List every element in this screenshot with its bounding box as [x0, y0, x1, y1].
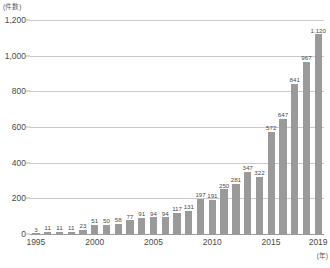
- bar-value-label: 117: [172, 206, 182, 212]
- x-axis-tick-label: 2000: [85, 238, 104, 247]
- x-axis-tick-label: 2019: [309, 238, 328, 247]
- bar: 77: [126, 220, 133, 234]
- x-axis-tick-label: 1995: [26, 238, 45, 247]
- bar-slot: 322: [254, 20, 266, 234]
- bar-value-label: 51: [91, 218, 98, 224]
- plot-area: 3111111235150587791949411713119719125028…: [30, 20, 324, 234]
- bar: 11: [68, 232, 75, 234]
- bar-value-label: 131: [184, 204, 194, 210]
- bar: 1,120: [315, 34, 322, 234]
- bar-value-label: 3: [34, 227, 37, 233]
- bar-value-label: 197: [195, 192, 205, 198]
- bar-slot: 23: [77, 20, 89, 234]
- x-axis-unit-label: (年): [317, 250, 328, 260]
- bar: 94: [162, 217, 169, 234]
- bar-value-label: 191: [207, 193, 217, 199]
- bar-slot: 250: [218, 20, 230, 234]
- bar-slot: 94: [159, 20, 171, 234]
- bar: 347: [244, 172, 251, 234]
- bar: 647: [279, 119, 286, 234]
- bar-value-label: 11: [56, 225, 62, 231]
- bar-chart: (件数) 1,2001,0008006004002000 31111112351…: [0, 0, 330, 268]
- bar: 3: [32, 233, 39, 234]
- bar: 91: [138, 218, 145, 234]
- bar: 131: [185, 211, 192, 234]
- bar-slot: 50: [101, 20, 113, 234]
- bar: 197: [197, 199, 204, 234]
- gridline: [30, 234, 324, 235]
- bar: 117: [173, 213, 180, 234]
- bar-slot: 197: [195, 20, 207, 234]
- bar-slot: 58: [112, 20, 124, 234]
- bar-series: 3111111235150587791949411713119719125028…: [30, 20, 324, 234]
- y-axis-tick-label: 800: [12, 87, 26, 96]
- x-axis-tick-label: 2015: [262, 238, 281, 247]
- x-axis-tick-label: 2010: [203, 238, 222, 247]
- bar: 250: [220, 189, 227, 234]
- bar-slot: 841: [289, 20, 301, 234]
- bar: 23: [79, 230, 86, 234]
- bar-slot: 647: [277, 20, 289, 234]
- bar: 11: [44, 232, 51, 234]
- bar: 841: [291, 84, 298, 234]
- bar-slot: 11: [54, 20, 66, 234]
- bar-slot: 281: [230, 20, 242, 234]
- bar: 50: [103, 225, 110, 234]
- bar: 281: [232, 184, 239, 234]
- bar-value-label: 347: [242, 165, 252, 171]
- bar-value-label: 23: [79, 223, 86, 229]
- y-axis-tick-label: 400: [12, 158, 26, 167]
- bar-slot: 572: [265, 20, 277, 234]
- bar-value-label: 322: [254, 170, 264, 176]
- bar: 58: [115, 224, 122, 234]
- bar-slot: 11: [65, 20, 77, 234]
- y-axis-tick-label: 200: [12, 194, 26, 203]
- y-axis-unit-label: (件数): [3, 1, 21, 11]
- bar-slot: 91: [136, 20, 148, 234]
- bar-value-label: 281: [231, 177, 241, 183]
- bar: 322: [256, 177, 263, 234]
- y-axis-tick-label: 1,000: [5, 51, 26, 60]
- bar: 11: [56, 232, 63, 234]
- bar-value-label: 572: [266, 125, 276, 131]
- bar: 967: [303, 62, 310, 234]
- bar-slot: 1,120: [312, 20, 324, 234]
- x-axis-tick-labels: 199520002005201020152019: [30, 236, 324, 250]
- bar-slot: 77: [124, 20, 136, 234]
- bar-value-label: 647: [278, 112, 288, 118]
- y-axis-tick-label: 1,200: [5, 16, 26, 25]
- y-axis-tick-label: 600: [12, 123, 26, 132]
- bar-value-label: 50: [103, 218, 110, 224]
- bar-value-label: 94: [162, 211, 169, 217]
- x-axis-tick-label: 2005: [144, 238, 163, 247]
- bar-slot: 117: [171, 20, 183, 234]
- bar-value-label: 91: [138, 211, 145, 217]
- bar-value-label: 94: [150, 211, 157, 217]
- bar-slot: 11: [42, 20, 54, 234]
- bar-value-label: 1,120: [311, 28, 326, 34]
- bar-slot: 347: [242, 20, 254, 234]
- bar: 51: [91, 225, 98, 234]
- bar-value-label: 77: [127, 214, 134, 220]
- bar: 94: [150, 217, 157, 234]
- bar: 191: [209, 200, 216, 234]
- bar-slot: 3: [30, 20, 42, 234]
- bar-slot: 967: [301, 20, 313, 234]
- bar-value-label: 58: [115, 217, 122, 223]
- bar-value-label: 11: [68, 225, 74, 231]
- y-axis-tick-labels: 1,2001,0008006004002000: [0, 20, 26, 234]
- bar-value-label: 11: [44, 225, 50, 231]
- bar-slot: 191: [206, 20, 218, 234]
- bar: 572: [268, 132, 275, 234]
- bar-value-label: 967: [301, 55, 311, 61]
- bar-value-label: 841: [290, 77, 300, 83]
- bar-slot: 94: [148, 20, 160, 234]
- bar-slot: 51: [89, 20, 101, 234]
- bar-value-label: 250: [219, 183, 229, 189]
- bar-slot: 131: [183, 20, 195, 234]
